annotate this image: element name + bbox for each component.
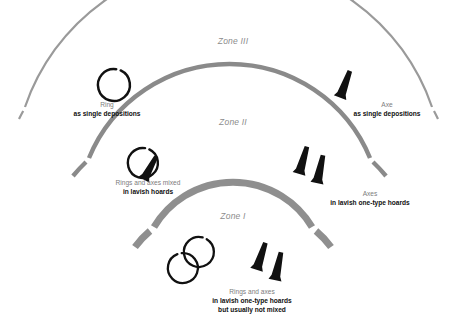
caption-zone1-rings-axes: Rings and axes in lavish one-type hoards… (212, 287, 292, 315)
caption-zone3-axe: Axe as single depositions (353, 100, 420, 118)
ring-icon-zone3 (96, 67, 132, 103)
zone-3-arc-dash-right (434, 111, 438, 119)
caption-head: Rings and axes (212, 287, 292, 296)
caption-zone2-axes: Axes in lavish one-type hoards (330, 189, 410, 207)
zone-label-zone-1: Zone I (220, 211, 245, 221)
zone-1-arc-dash-left (135, 231, 150, 247)
caption-body: in lavish hoards (116, 187, 181, 196)
zone-arcs (0, 0, 457, 326)
zone-2-arc-dash-right (373, 162, 386, 176)
zone-3-arc-main (25, 0, 432, 107)
axe-icon-zone3 (334, 69, 356, 100)
caption-head: Ring (73, 100, 140, 109)
caption-head: Axe (353, 100, 420, 109)
caption-zone2-rings-axes: Rings and axes mixed in lavish hoards (116, 178, 181, 196)
axe-pair-icon-zone2 (293, 145, 330, 185)
caption-body: as single depositions (73, 109, 140, 118)
zone-1-arc-dash-right (316, 231, 331, 247)
caption-body: in lavish one-type hoards but usually no… (212, 296, 292, 314)
caption-head: Rings and axes mixed (116, 178, 181, 187)
zone-label-zone-2: Zone II (219, 117, 247, 127)
zone-label-zone-3: Zone III (218, 36, 248, 46)
ring-pair-icon-zone1 (163, 234, 217, 288)
caption-body: as single depositions (353, 109, 420, 118)
caption-head: Axes (330, 189, 410, 198)
zone-2-arc-dash-left (73, 162, 86, 176)
zone-3-arc-dash-left (19, 111, 23, 119)
caption-body: in lavish one-type hoards (330, 198, 410, 207)
caption-zone3-ring: Ring as single depositions (73, 100, 140, 118)
ring-and-axe-icon-zone2 (126, 146, 161, 182)
zone-diagram: Zone III Zone II Zone I Ring as single d… (0, 0, 457, 326)
axe-pair-icon-zone1 (250, 241, 287, 282)
